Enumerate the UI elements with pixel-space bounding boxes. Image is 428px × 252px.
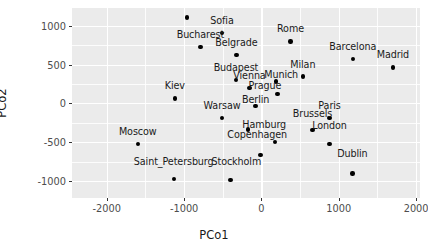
plot-panel: IstanbulSofiaBucharestBelgradeRomeBarcel… [72,8,420,198]
point-label: London [312,122,347,132]
data-point[interactable] [173,96,177,100]
point-label: Berlin [242,96,269,106]
data-point[interactable] [220,116,224,120]
x-axis-tick [416,198,417,201]
gridline-major-horizontal [72,142,420,143]
data-point[interactable] [273,140,277,144]
point-label: Prague [248,81,281,91]
x-axis-tick-label: -1000 [170,203,198,214]
point-label: Rome [277,25,304,35]
x-axis-tick [184,198,185,201]
point-label: Brussels [293,110,332,120]
data-point[interactable] [258,153,262,157]
y-axis-tick-label: 1000 [41,20,66,31]
y-axis-tick [69,142,72,143]
x-axis-tick-label: 2000 [404,203,428,214]
y-axis-tick-label: 0 [60,98,66,109]
point-label: Kiev [165,82,185,92]
y-axis-tick-label: 500 [47,59,66,70]
x-axis-title: PCo1 [0,228,428,242]
gridline-major-horizontal [72,181,420,182]
point-label: Barcelona [329,43,376,53]
data-point[interactable] [391,65,395,69]
y-axis-title: PCo2 [0,88,9,117]
gridline-minor-horizontal [72,84,420,85]
point-label: Saint_Petersburg [134,157,214,167]
pcoa-scatter-chart: IstanbulSofiaBucharestBelgradeRomeBarcel… [0,0,428,252]
point-label: Istanbul [168,8,206,10]
x-axis-tick [107,198,108,201]
data-point[interactable] [350,171,354,175]
point-label: Warsaw [204,102,241,112]
point-label: Belgrade [215,38,257,48]
point-label: Munich [264,70,298,80]
x-axis-tick [339,198,340,201]
x-axis-tick [261,198,262,201]
point-label: Copenhagen [227,130,287,140]
data-point[interactable] [275,92,279,96]
point-label: Moscow [119,127,157,137]
point-label: Sofia [210,16,233,26]
y-axis-tick [69,181,72,182]
y-axis-tick [69,103,72,104]
y-axis-tick [69,65,72,66]
data-point[interactable] [136,142,140,146]
y-axis-tick [69,26,72,27]
y-axis-tick-label: -500 [44,137,66,148]
data-point[interactable] [327,142,331,146]
point-label: Madrid [377,51,409,61]
x-axis-tick-label: 0 [258,203,264,214]
data-point[interactable] [228,178,232,182]
data-point[interactable] [234,53,238,57]
x-axis-tick-label: -2000 [93,203,121,214]
point-label: Dublin [337,150,367,160]
y-axis-tick-label: -1000 [38,175,66,186]
data-point[interactable] [198,45,202,49]
data-point[interactable] [301,74,305,78]
data-point[interactable] [351,57,355,61]
point-label: Stockholm [212,157,262,167]
data-point[interactable] [288,39,292,43]
gridline-major-horizontal [72,26,420,27]
data-point[interactable] [172,177,176,181]
x-axis-tick-label: 1000 [326,203,351,214]
data-point[interactable] [185,15,189,19]
